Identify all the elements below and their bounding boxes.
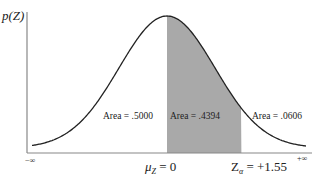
shaded-area (167, 16, 241, 153)
neg-infinity-label: −∞ (25, 156, 36, 165)
pos-infinity-label: +∞ (297, 154, 308, 163)
mean-label: μZ = 0 (144, 159, 176, 176)
area-middle-label: Area = .4394 (170, 111, 220, 121)
normal-distribution-diagram: p(Z) Area = .5000 Area = .4394 Area = .0… (0, 0, 321, 178)
critical-z-label: Zα = +1.55 (231, 159, 287, 176)
y-axis-label: p(Z) (1, 8, 24, 23)
area-left-label: Area = .5000 (103, 111, 153, 121)
area-right-label: Area = .0606 (252, 111, 302, 121)
